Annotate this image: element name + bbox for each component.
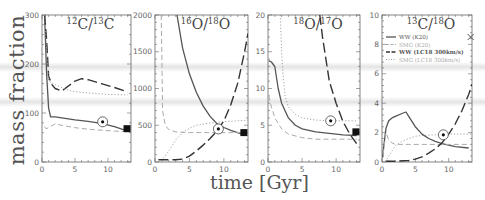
cross-marker-icon xyxy=(468,34,474,40)
x-tick-label: 0 xyxy=(153,165,158,174)
axes-frame xyxy=(155,15,248,162)
y-tick-label: 500 xyxy=(138,121,153,130)
panel-title: 16 O/18 O xyxy=(181,16,230,32)
x-tick-label: 5 xyxy=(413,165,418,174)
x-tick-label: 5 xyxy=(73,165,78,174)
series-line xyxy=(158,120,248,162)
panel-1: 0510010020030012 C/13 C xyxy=(25,11,131,175)
series-line xyxy=(385,84,472,161)
observation-square-marker xyxy=(352,128,359,135)
panel-title: 18 O/17 O xyxy=(293,16,342,32)
y-tick-label: 1500 xyxy=(133,47,152,56)
y-tick-label: 1000 xyxy=(133,84,152,93)
series-line xyxy=(158,33,248,159)
series-line xyxy=(161,15,244,133)
x-tick-label: 0 xyxy=(380,165,385,174)
y-tick-label: 10 xyxy=(255,84,265,93)
legend-entry: SMG (LC18 300km/s) xyxy=(399,57,460,63)
x-tick-label: 5 xyxy=(187,165,192,174)
y-axis-label-text: mass fraction xyxy=(5,15,29,166)
panel-title: 12 C/13 C xyxy=(67,16,115,32)
y-tick-label: 0 xyxy=(147,158,152,167)
y-tick-label: 0 xyxy=(374,158,379,167)
y-tick-label: 15 xyxy=(255,47,265,56)
legend-entry: WW (K20) xyxy=(399,34,428,40)
series-line xyxy=(382,112,469,162)
x-tick-label: 10 xyxy=(444,165,454,174)
x-tick-label: 10 xyxy=(103,165,113,174)
y-tick-label: 2 xyxy=(374,128,379,137)
panel-3: 05100510152018 O/17 O xyxy=(255,11,360,175)
y-tick-label: 5 xyxy=(260,121,265,130)
y-tick-label: 2000 xyxy=(133,11,152,20)
y-axis-label: mass fraction xyxy=(2,20,32,160)
series-line xyxy=(45,124,128,132)
x-tick-label: 10 xyxy=(331,165,341,174)
panel-title: 13 C/18 O xyxy=(407,16,456,32)
legend-entry: WW (LC18 300km/s) xyxy=(398,49,464,55)
panel-4: 0510024681013 C/18 OWW (K20)SMG (K20)WW … xyxy=(369,11,473,175)
x-axis-label: time [Gyr] xyxy=(210,171,309,193)
y-tick-label: 6 xyxy=(374,69,379,78)
x-tick-label: 0 xyxy=(40,165,45,174)
y-tick-label: 20 xyxy=(255,11,265,20)
panel-2: 0510050010001500200016 O/18 O xyxy=(133,11,248,175)
y-tick-label: 0 xyxy=(34,158,39,167)
y-tick-label: 4 xyxy=(374,99,379,108)
y-tick-label: 0 xyxy=(260,158,265,167)
observation-square-marker xyxy=(240,129,247,136)
figure: 0510010020030012 C/13 C05100500100015002… xyxy=(0,0,485,200)
legend-entry: SMG (K20) xyxy=(399,42,430,48)
series-line xyxy=(320,15,357,144)
y-tick-label: 8 xyxy=(374,40,379,49)
axes-frame xyxy=(268,15,360,162)
observation-square-marker xyxy=(124,125,131,132)
series-line xyxy=(45,15,128,131)
series-line xyxy=(269,61,357,136)
series-line xyxy=(177,15,245,135)
legend: WW (K20)SMG (K20)WW (LC18 300km/s)SMG (L… xyxy=(386,34,464,63)
y-tick-label: 10 xyxy=(369,11,379,20)
